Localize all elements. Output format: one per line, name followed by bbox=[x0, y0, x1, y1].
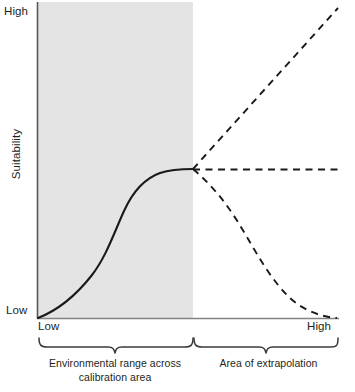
brace-extrapolation-area bbox=[194, 338, 338, 353]
x-axis-high-label: High bbox=[307, 320, 331, 332]
caption-extrapolation-area: Area of extrapolation bbox=[196, 357, 341, 371]
figure-container: High Low Suitability Low High Environmen… bbox=[0, 0, 355, 392]
brace-calibration-area bbox=[39, 338, 193, 353]
calibration-shaded-region bbox=[38, 2, 193, 318]
extrapolation-increasing-curve bbox=[193, 8, 338, 169]
caption-calibration-line1: Environmental range across bbox=[49, 357, 181, 369]
y-axis-low-label: Low bbox=[6, 304, 27, 316]
extrapolation-decreasing-curve bbox=[193, 169, 337, 318]
caption-calibration-line2: calibration area bbox=[79, 371, 152, 383]
y-axis-high-label: High bbox=[4, 5, 28, 17]
y-axis-title: Suitability bbox=[10, 122, 22, 186]
suitability-extrapolation-chart bbox=[0, 0, 355, 392]
x-axis-low-label: Low bbox=[38, 320, 59, 332]
caption-calibration-area: Environmental range across calibration a… bbox=[25, 357, 205, 384]
